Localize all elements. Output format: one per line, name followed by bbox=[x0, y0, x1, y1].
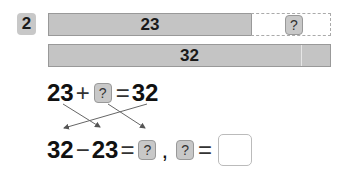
arrow-32-to-minuend bbox=[64, 104, 147, 128]
equals-sign-2: = bbox=[198, 136, 212, 164]
answer-input-box[interactable] bbox=[218, 134, 252, 166]
arrow-23-to-subtrahend bbox=[63, 104, 100, 127]
subtrahend: 23 bbox=[92, 136, 119, 164]
unknown-box-2: ? bbox=[176, 140, 194, 160]
subtraction-equation: 32 − 23 = ? , ? = bbox=[47, 134, 252, 166]
arrow-unknown-to-result bbox=[108, 104, 145, 128]
minuend: 32 bbox=[47, 136, 74, 164]
equals-sign: = bbox=[120, 136, 134, 164]
difference-unknown-box: ? bbox=[138, 140, 156, 160]
comma-separator: , bbox=[161, 136, 168, 164]
minus-sign: − bbox=[76, 136, 90, 164]
